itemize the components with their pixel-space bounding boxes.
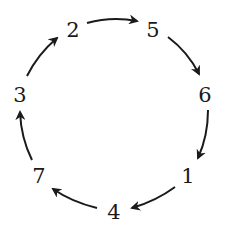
node-1: 1 — [181, 166, 194, 187]
edge-1-to-4 — [132, 187, 175, 208]
edge-2-to-5 — [87, 19, 137, 23]
node-4: 4 — [107, 202, 120, 223]
node-2: 2 — [66, 20, 79, 41]
edge-4-to-7 — [53, 189, 97, 208]
edge-5-to-6 — [168, 37, 199, 74]
node-3: 3 — [13, 85, 26, 106]
node-7: 7 — [32, 166, 45, 187]
node-6: 6 — [198, 85, 211, 106]
edge-7-to-3 — [20, 112, 32, 160]
edge-3-to-2 — [27, 38, 57, 76]
node-5: 5 — [146, 20, 159, 41]
edge-6-to-1 — [198, 110, 208, 158]
cycle-diagram: 2 5 6 1 4 7 3 — [0, 0, 230, 247]
